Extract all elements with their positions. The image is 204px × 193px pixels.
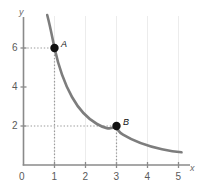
x-tick-label-2: 2 xyxy=(83,172,89,182)
curve-hyperbola xyxy=(47,15,181,152)
x-axis-label: x xyxy=(190,164,195,173)
guide-lines-b xyxy=(24,126,117,164)
data-point-label-b: B xyxy=(123,118,129,127)
y-axis-label: y xyxy=(19,8,24,17)
y-tick-label-6: 6 xyxy=(12,43,18,53)
y-tick-label-4: 4 xyxy=(12,82,18,92)
y-tick-label-2: 2 xyxy=(12,121,18,131)
x-tick-label-4: 4 xyxy=(145,172,151,182)
x-tick-label-1: 1 xyxy=(52,172,58,182)
x-tick-label-5: 5 xyxy=(176,172,182,182)
data-point-a xyxy=(50,44,58,52)
gridlines xyxy=(55,16,179,165)
data-point-b xyxy=(112,122,120,130)
graph-canvas xyxy=(0,0,204,193)
data-point-label-a: A xyxy=(61,40,67,49)
guide-lines-a xyxy=(24,48,55,164)
origin-label: 0 xyxy=(19,172,25,182)
graph-figure: y x 0 1 2 3 4 5 6 4 2 A B xyxy=(0,0,204,193)
x-tick-label-3: 3 xyxy=(114,172,120,182)
